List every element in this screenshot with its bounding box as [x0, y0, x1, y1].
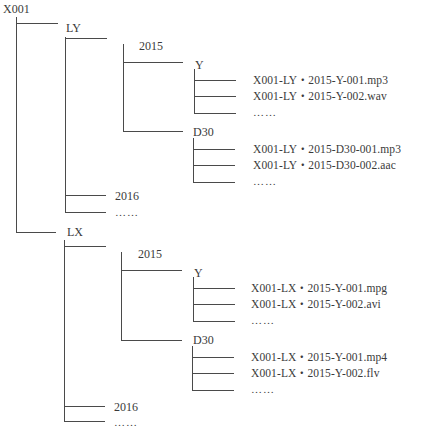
edge-file	[193, 288, 235, 289]
lx-connector	[64, 240, 65, 421]
edge-file	[194, 96, 236, 97]
node-ly-2015-y: Y	[195, 59, 204, 71]
node-lx-2015-y: Y	[194, 267, 203, 279]
node-ly-2015: 2015	[139, 40, 163, 52]
edge-ly-2015	[65, 38, 107, 39]
file-ellipsis: ……	[251, 383, 275, 395]
file-ellipsis: ……	[251, 314, 275, 326]
file-item: X001-LY・2015-Y-002.wav	[253, 90, 387, 102]
edge-lx-2015-y	[121, 270, 182, 271]
edge-file	[193, 304, 235, 305]
file-item: X001-LX・2015-Y-002.avi	[251, 298, 381, 310]
node-ly-2016: 2016	[115, 190, 139, 202]
node-lx-more: ……	[114, 416, 138, 428]
edge-file	[193, 182, 235, 183]
edge-file	[193, 149, 235, 150]
node-ly-2015-d30: D30	[193, 126, 214, 138]
node-lx-2015: 2015	[138, 248, 162, 260]
edge-ly-2016	[65, 195, 106, 196]
edge-file	[193, 165, 235, 166]
file-item: X001-LX・2015-Y-001.mp4	[251, 351, 387, 363]
file-item: X001-LX・2015-Y-001.mpg	[251, 282, 387, 294]
file-item: X001-LY・2015-D30-002.aac	[253, 159, 396, 171]
tree-diagram: X001 LY 2015 Y X001-LY・2015-Y-001.mp3 X0…	[0, 0, 423, 435]
edge-file	[193, 321, 235, 322]
file-item: X001-LY・2015-Y-001.mp3	[253, 74, 388, 86]
edge-lx-more	[64, 421, 105, 422]
ly-2015-connector	[123, 44, 124, 132]
file-item: X001-LY・2015-D30-001.mp3	[253, 143, 401, 155]
edge-root-lx	[16, 232, 56, 233]
root-connector	[16, 17, 17, 233]
edge-file	[192, 357, 234, 358]
edge-lx-2016	[64, 406, 105, 407]
edge-lx-2015-d30	[121, 340, 182, 341]
node-ly: LY	[66, 22, 81, 34]
edge-file	[192, 373, 234, 374]
node-root: X001	[3, 3, 30, 15]
edge-lx-2015	[64, 246, 106, 247]
edge-ly-more	[65, 212, 106, 213]
node-lx: LX	[67, 226, 83, 238]
ly-connector	[65, 37, 66, 213]
ly-2015-d30-connector	[193, 138, 194, 183]
edge-file	[194, 113, 236, 114]
node-ly-more: ……	[115, 206, 139, 218]
ly-2015-y-connector	[194, 69, 195, 114]
file-ellipsis: ……	[253, 106, 277, 118]
node-lx-2016: 2016	[114, 401, 138, 413]
edge-ly-2015-y	[123, 62, 183, 63]
file-item: X001-LX・2015-Y-002.flv	[251, 367, 380, 379]
edge-ly-2015-d30	[123, 131, 183, 132]
lx-2015-connector	[121, 252, 122, 341]
lx-2015-d30-connector	[192, 346, 193, 391]
edge-root-ly	[16, 23, 58, 24]
node-lx-2015-d30: D30	[193, 334, 214, 346]
edge-file	[194, 80, 236, 81]
lx-2015-y-connector	[193, 277, 194, 322]
file-ellipsis: ……	[253, 175, 277, 187]
edge-file	[192, 390, 234, 391]
